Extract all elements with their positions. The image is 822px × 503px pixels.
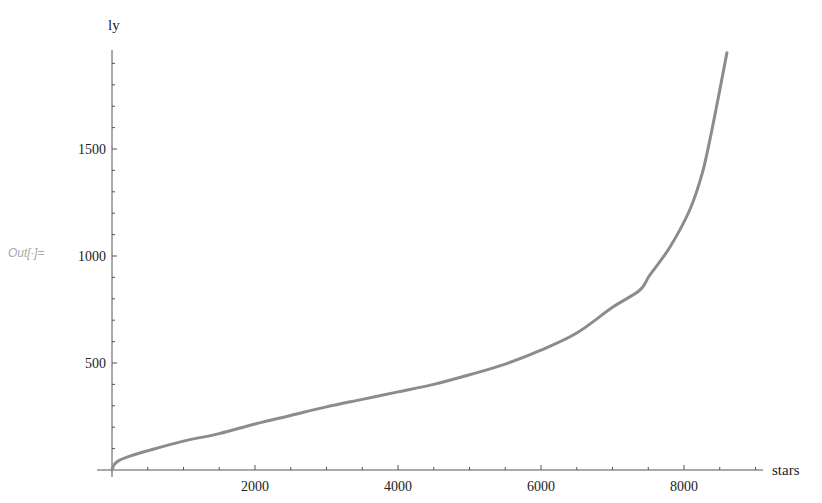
data-line — [112, 53, 727, 470]
y-tick-label: 500 — [85, 356, 106, 371]
x-tick-label: 4000 — [384, 479, 412, 494]
y-axis-title: ly — [108, 17, 120, 33]
x-tick-label: 6000 — [527, 479, 555, 494]
y-tick-label: 1500 — [78, 142, 106, 157]
y-tick-label: 1000 — [78, 249, 106, 264]
x-tick-label: 8000 — [670, 479, 698, 494]
x-axis-title: stars — [772, 462, 800, 478]
axis-ticks — [112, 63, 756, 470]
tick-labels: 200040006000800050010001500 — [78, 142, 698, 494]
x-tick-label: 2000 — [241, 479, 269, 494]
line-chart: 200040006000800050010001500 stars ly — [0, 0, 822, 503]
axes — [97, 50, 763, 477]
